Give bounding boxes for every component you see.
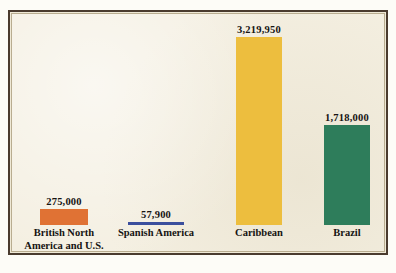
bar-category-line1: Brazil: [333, 227, 360, 238]
chart-plot-area: 275,000 British North America and U.S. 5…: [12, 14, 384, 225]
bar-group-caribbean: 3,219,950 Caribbean: [213, 24, 305, 225]
bar-group-british-north-america: 275,000 British North America and U.S.: [18, 196, 110, 225]
bar-value-label: 1,718,000: [301, 112, 393, 124]
bar-value-label: 57,900: [110, 209, 202, 221]
bar-rect-brazil: [324, 125, 370, 225]
bar-category-line1: British North: [34, 227, 94, 238]
bar-category-line1: Spanish America: [118, 227, 194, 238]
bar-rect-british-north-america: [40, 209, 88, 225]
bar-group-spanish-america: 57,900 Spanish America: [110, 209, 202, 225]
bar-group-brazil: 1,718,000 Brazil: [301, 112, 393, 225]
bar-chart-figure: 275,000 British North America and U.S. 5…: [0, 0, 396, 273]
bar-category-label-british-north-america: British North America and U.S.: [18, 225, 110, 252]
bar-category-label-spanish-america: Spanish America: [110, 225, 202, 240]
bar-value-label: 275,000: [18, 196, 110, 208]
bar-rect-caribbean: [236, 37, 282, 225]
bar-category-line2: America and U.S.: [18, 240, 110, 253]
bar-category-label-caribbean: Caribbean: [213, 225, 305, 240]
bar-category-line1: Caribbean: [235, 227, 283, 238]
bar-value-label: 3,219,950: [213, 24, 305, 36]
figure-caption-fragment: [8, 262, 388, 272]
bar-category-label-brazil: Brazil: [301, 225, 393, 240]
